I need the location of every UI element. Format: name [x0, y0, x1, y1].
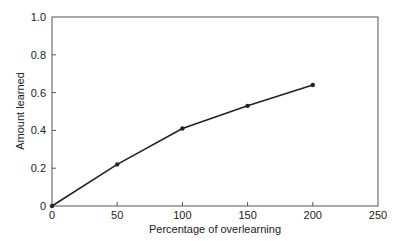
- x-tick-label: 100: [173, 209, 191, 221]
- x-tick-label: 50: [111, 209, 123, 221]
- y-tick-label: 0.8: [31, 49, 46, 61]
- data-point-marker: [245, 104, 249, 108]
- x-tick-label: 150: [238, 209, 256, 221]
- y-tick-label: 0: [40, 200, 46, 212]
- data-point-marker: [311, 83, 315, 87]
- y-tick-label: 1.0: [31, 11, 46, 23]
- y-tick-label: 0.4: [31, 124, 46, 136]
- y-tick-label: 0.2: [31, 162, 46, 174]
- data-series: [50, 83, 315, 208]
- x-tick-label: 200: [304, 209, 322, 221]
- data-point-marker: [115, 162, 119, 166]
- y-tick-label: 0.6: [31, 87, 46, 99]
- y-axis-label: Amount learned: [14, 72, 26, 150]
- data-point-marker: [180, 126, 184, 130]
- plot-frame: [52, 17, 378, 206]
- line-chart: 050100150200250 00.20.40.60.81.0 Percent…: [0, 0, 399, 241]
- x-tick-label: 0: [49, 209, 55, 221]
- plot-border: [52, 17, 378, 206]
- series-line: [52, 85, 313, 206]
- x-axis-ticks: 050100150200250: [49, 202, 387, 221]
- x-tick-label: 250: [369, 209, 387, 221]
- data-point-marker: [50, 204, 54, 208]
- x-axis-label: Percentage of overlearning: [149, 223, 281, 235]
